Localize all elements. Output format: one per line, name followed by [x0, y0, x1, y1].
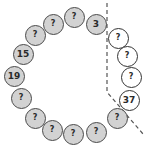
ring-node-13: 19 — [4, 66, 25, 87]
node-label: ? — [125, 52, 130, 60]
ring-node-8: ? — [86, 122, 107, 143]
node-label: ? — [72, 13, 77, 21]
ring-node-11: ? — [25, 108, 46, 129]
ring-node-5: ? — [121, 67, 142, 88]
ring-node-14: 15 — [13, 44, 34, 65]
ring-node-1: ? — [64, 7, 85, 28]
ring-node-4: ? — [117, 46, 138, 67]
ring-node-12: ? — [11, 88, 32, 109]
node-label: ? — [33, 114, 38, 122]
ring-node-16: ? — [43, 14, 64, 35]
node-label: ? — [129, 73, 134, 81]
circle-ring-diagram: ? 3 ? ? ? 37 ? ? ? ? ? ? 19 15 ? ? — [0, 0, 150, 152]
ring-node-15: ? — [25, 25, 46, 46]
ring-node-7: ? — [107, 108, 128, 129]
node-label: ? — [51, 20, 56, 28]
node-label: ? — [33, 31, 38, 39]
node-label: 3 — [93, 20, 99, 29]
node-label: ? — [50, 126, 55, 134]
node-label: ? — [115, 114, 120, 122]
ring-node-9: ? — [63, 124, 84, 145]
node-label: ? — [116, 34, 121, 42]
node-label: ? — [19, 94, 24, 102]
ring-node-2: 3 — [86, 14, 107, 35]
node-label: 37 — [123, 96, 136, 105]
node-label: ? — [94, 128, 99, 136]
node-label: ? — [71, 130, 76, 138]
node-label: 15 — [17, 50, 30, 59]
ring-node-6: 37 — [119, 90, 140, 111]
node-label: 19 — [8, 72, 21, 81]
